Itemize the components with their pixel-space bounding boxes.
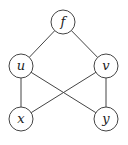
graph-diagram: f u v x y	[0, 0, 128, 145]
node-y: y	[94, 107, 118, 131]
node-u: u	[9, 54, 33, 78]
node-v-label: v	[102, 58, 110, 73]
edges	[21, 22, 106, 119]
node-f: f	[51, 10, 75, 34]
node-y-label: y	[101, 111, 110, 126]
node-v: v	[94, 54, 118, 78]
node-x-label: x	[17, 111, 25, 126]
node-x: x	[9, 107, 33, 131]
node-u-label: u	[17, 58, 25, 73]
